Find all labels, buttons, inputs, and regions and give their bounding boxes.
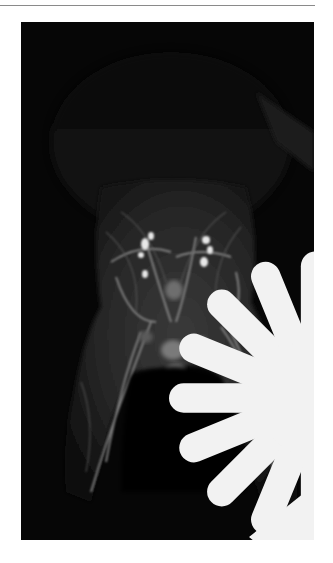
arrowhead-marker-icon (137, 437, 314, 540)
document-page (0, 0, 333, 563)
mr-angiography-figure (21, 22, 314, 540)
header-rule (0, 5, 315, 6)
